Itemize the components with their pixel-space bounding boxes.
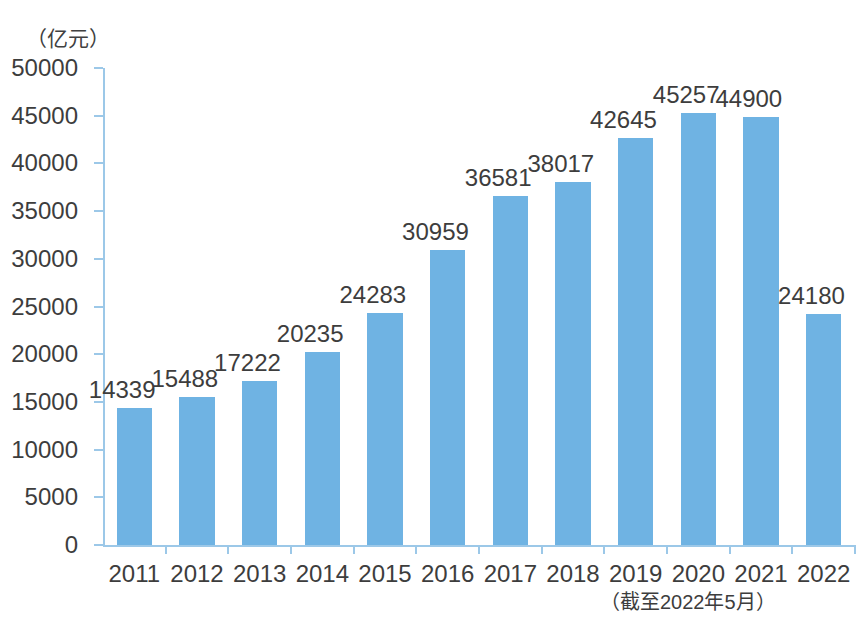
x-axis-tick-label: 2019 — [609, 560, 662, 588]
x-axis-tick — [666, 545, 668, 554]
bar — [743, 117, 778, 545]
bar — [681, 113, 716, 545]
x-axis-tick-label: 2022 — [797, 560, 850, 588]
bar — [117, 408, 152, 545]
bar — [618, 138, 653, 545]
x-axis-tick — [791, 545, 793, 554]
y-axis-tick-label: 15000 — [0, 388, 78, 416]
bar-chart: （亿元） 05000100001500020000250003000035000… — [0, 0, 865, 640]
x-axis-tick-label: 2021 — [734, 560, 787, 588]
y-axis-tick — [94, 353, 103, 355]
y-axis-tick-label: 50000 — [0, 54, 78, 82]
bar — [367, 313, 402, 545]
x-axis-tick — [729, 545, 731, 554]
x-axis-tick — [165, 545, 167, 554]
x-axis-tick-label: 2018 — [546, 560, 599, 588]
bar — [493, 196, 528, 545]
y-axis-tick-label: 30000 — [0, 245, 78, 273]
y-axis-tick — [94, 496, 103, 498]
bar — [179, 397, 214, 545]
x-axis-tick — [227, 545, 229, 554]
bar-value-label: 14339 — [89, 376, 156, 404]
y-axis-tick-label: 35000 — [0, 197, 78, 225]
y-axis-tick — [94, 115, 103, 117]
bar — [806, 314, 841, 545]
x-axis-tick — [415, 545, 417, 554]
x-axis-tick-label: 2017 — [484, 560, 537, 588]
y-axis-tick — [94, 210, 103, 212]
y-axis-tick-label: 45000 — [0, 102, 78, 130]
plot-area: 0500010000150002000025000300003500040000… — [103, 68, 855, 545]
bar-value-label: 24180 — [778, 282, 845, 310]
y-axis-line — [103, 68, 105, 545]
y-axis-unit-label: （亿元） — [26, 22, 110, 52]
x-axis-tick — [290, 545, 292, 554]
y-axis-tick — [94, 449, 103, 451]
x-axis-tick-label: 2011 — [109, 560, 161, 588]
y-axis-tick-label: 25000 — [0, 293, 78, 321]
bar — [242, 381, 277, 545]
x-axis-tick-label: 2014 — [296, 560, 349, 588]
y-axis-tick — [94, 306, 103, 308]
bar-value-label: 20235 — [277, 320, 344, 348]
y-axis-tick-label: 0 — [0, 531, 78, 559]
x-axis-tick — [353, 545, 355, 554]
x-axis-tick-label: 2012 — [170, 560, 223, 588]
bar-value-label: 24283 — [339, 281, 406, 309]
bar-value-label: 45257 — [653, 81, 720, 109]
x-axis-tick — [478, 545, 480, 554]
y-axis-tick-label: 10000 — [0, 436, 78, 464]
y-axis-tick — [94, 544, 103, 546]
y-axis-tick-label: 5000 — [0, 483, 78, 511]
y-axis-tick — [94, 67, 103, 69]
bar-value-label: 44900 — [715, 85, 782, 113]
bar — [555, 182, 590, 545]
y-axis-tick-label: 40000 — [0, 149, 78, 177]
bar-value-label: 30959 — [402, 218, 469, 246]
bar-value-label: 38017 — [527, 150, 594, 178]
bar-value-label: 17222 — [214, 349, 281, 377]
x-axis-tick — [541, 545, 543, 554]
bar — [305, 352, 340, 545]
y-axis-tick — [94, 162, 103, 164]
y-axis-tick — [94, 258, 103, 260]
chart-footnote: （截至2022年5月） — [600, 586, 776, 615]
x-axis-tick-label: 2020 — [672, 560, 725, 588]
x-axis-tick — [603, 545, 605, 554]
x-axis-tick-label: 2016 — [421, 560, 474, 588]
x-axis-tick-label: 2013 — [233, 560, 286, 588]
bar-value-label: 15488 — [151, 365, 218, 393]
x-axis-tick-label: 2015 — [358, 560, 411, 588]
x-axis-tick — [854, 545, 856, 554]
bar-value-label: 36581 — [465, 164, 532, 192]
bar-value-label: 42645 — [590, 106, 657, 134]
bar — [430, 250, 465, 545]
y-axis-tick-label: 20000 — [0, 340, 78, 368]
